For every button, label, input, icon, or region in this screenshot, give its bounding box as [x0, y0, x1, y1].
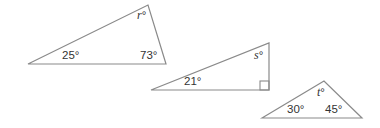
triangle-s: 21° s° — [151, 43, 269, 90]
triangle-s-shape — [151, 43, 269, 90]
angle-25-label: 25° — [62, 49, 79, 61]
triangle-t: 30° 45° t° — [262, 81, 362, 118]
angle-t-label: t° — [317, 85, 325, 99]
angle-r-label: r° — [137, 8, 146, 22]
triangle-angles-diagram: 25° 73° r° 21° s° 30° 45° t° — [0, 0, 380, 128]
angle-30-label: 30° — [287, 103, 304, 115]
angle-45-label: 45° — [325, 103, 342, 115]
triangle-t-shape — [262, 81, 362, 118]
angle-73-label: 73° — [140, 49, 157, 61]
triangle-r: 25° 73° r° — [28, 5, 166, 64]
angle-s-label: s° — [254, 48, 263, 62]
angle-21-label: 21° — [184, 75, 201, 87]
